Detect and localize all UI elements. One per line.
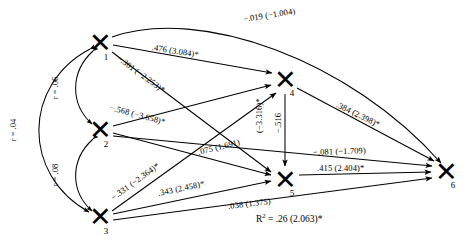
node-3[interactable]: ✕ 3: [100, 217, 101, 218]
node-label-1: 1: [104, 52, 109, 62]
node-1[interactable]: ✕ 1: [100, 43, 101, 44]
r-squared-value: = .26 (2.063)*: [266, 214, 323, 224]
path-analysis-diagram: ✕ 1 ✕ 2 ✕ 3 ✕ 4 ✕ 5 ✕ 6 r = .06 r = .08 …: [0, 0, 468, 251]
correlation-label-1-2: r = .06: [50, 77, 60, 100]
node-label-5: 5: [290, 188, 295, 198]
path-label-5-6: .415 (2.404)*: [317, 163, 364, 173]
node-2[interactable]: ✕ 2: [100, 130, 101, 131]
node-label-2: 2: [104, 139, 109, 149]
r-squared-statistic: R2 = .26 (2.063)*: [256, 212, 322, 224]
node-label-6: 6: [451, 180, 456, 190]
path-label-4-5-tvalue: (−3.316)*: [254, 98, 264, 133]
node-4[interactable]: ✕ 4: [285, 80, 286, 81]
correlation-arc-1-3: [39, 49, 90, 212]
node-label-3: 3: [104, 226, 109, 236]
path-edge-2-6: [113, 136, 432, 166]
node-label-4: 4: [290, 88, 295, 98]
path-label-4-5-coefficient: −.516: [273, 113, 283, 133]
correlation-label-1-3: r = .04: [8, 119, 18, 142]
path-label-2-6: −.081 (−1.709): [313, 145, 366, 157]
correlation-arc-1-2: [76, 51, 93, 124]
node-6[interactable]: ✕ 6: [446, 172, 447, 173]
path-edge-2-4: [113, 85, 271, 126]
correlation-arc-2-3: [76, 139, 93, 211]
node-5[interactable]: ✕ 5: [285, 180, 286, 181]
diagram-edges-layer: [0, 0, 468, 251]
correlation-label-2-3: r = .08: [50, 164, 60, 187]
